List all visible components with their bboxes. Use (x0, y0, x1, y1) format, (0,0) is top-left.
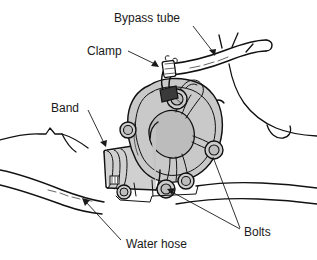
leader-bypass-tube (193, 26, 216, 56)
figure-container: Bypass tube Clamp Band Bolts Water hose (0, 0, 317, 260)
bypass-tube-part (160, 40, 272, 102)
label-bolts: Bolts (244, 225, 271, 239)
hose-clamp (162, 56, 177, 78)
leader-band (88, 110, 107, 147)
bolt-inner-bottom (178, 173, 194, 189)
water-pump-diagram: Bypass tube Clamp Band Bolts Water hose (0, 0, 317, 260)
bolt-left (120, 122, 136, 138)
label-bypass-tube: Bypass tube (114, 11, 180, 25)
water-hose-part (0, 170, 104, 214)
bolt-lower-left (117, 185, 131, 199)
leader-water-hose (82, 198, 121, 240)
bolt-right (205, 141, 223, 159)
label-clamp: Clamp (87, 44, 122, 58)
label-water-hose: Water hose (126, 237, 187, 251)
leader-clamp (128, 51, 159, 67)
label-band: Band (51, 101, 79, 115)
